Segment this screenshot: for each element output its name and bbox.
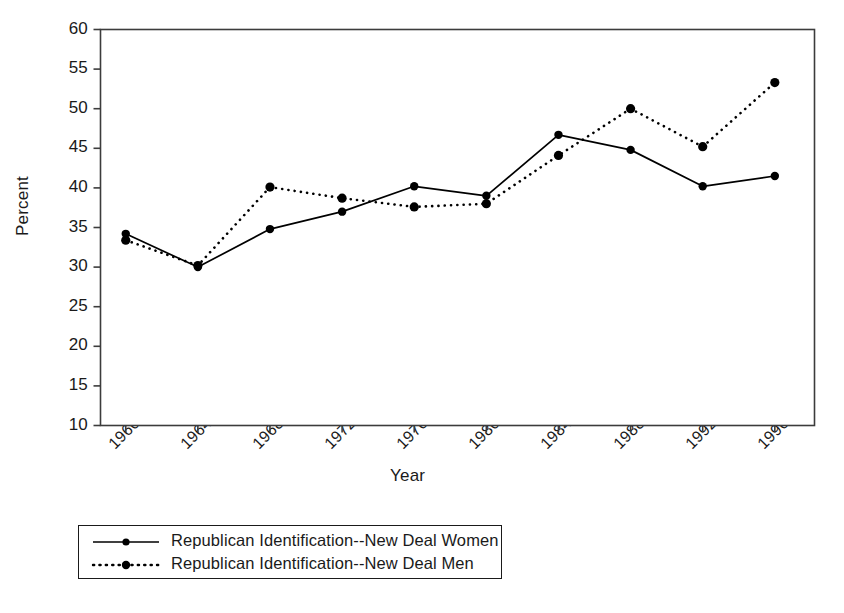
data-point	[698, 142, 707, 151]
legend-swatch-dotted-line	[91, 553, 161, 577]
chart-figure: Percent Year 1015202530354045505560 1960…	[0, 0, 844, 613]
data-point	[193, 261, 202, 270]
data-point	[482, 192, 490, 200]
legend-entry-men: Republican Identification--New Deal Men	[79, 553, 501, 577]
axes-frame	[101, 30, 815, 426]
data-point	[410, 202, 419, 211]
data-point	[410, 182, 418, 190]
data-point	[482, 199, 491, 208]
data-point	[626, 104, 635, 113]
data-point	[771, 172, 779, 180]
plot-area	[0, 0, 844, 613]
data-point	[265, 183, 274, 192]
data-point	[770, 78, 779, 87]
legend-label-women: Republican Identification--New Deal Wome…	[171, 531, 499, 550]
data-point	[699, 182, 707, 190]
x-tick-marks	[126, 426, 775, 433]
data-point	[338, 207, 346, 215]
y-tick-marks	[94, 30, 101, 426]
data-point	[626, 146, 634, 154]
data-point	[554, 151, 563, 160]
legend-label-men: Republican Identification--New Deal Men	[171, 554, 474, 573]
chart-legend: Republican Identification--New Deal Wome…	[78, 525, 502, 579]
data-point	[266, 225, 274, 233]
legend-entry-women: Republican Identification--New Deal Wome…	[79, 530, 501, 554]
data-point	[121, 236, 130, 245]
data-point	[338, 194, 347, 203]
data-point	[554, 131, 562, 139]
legend-swatch-solid-line	[91, 530, 161, 554]
